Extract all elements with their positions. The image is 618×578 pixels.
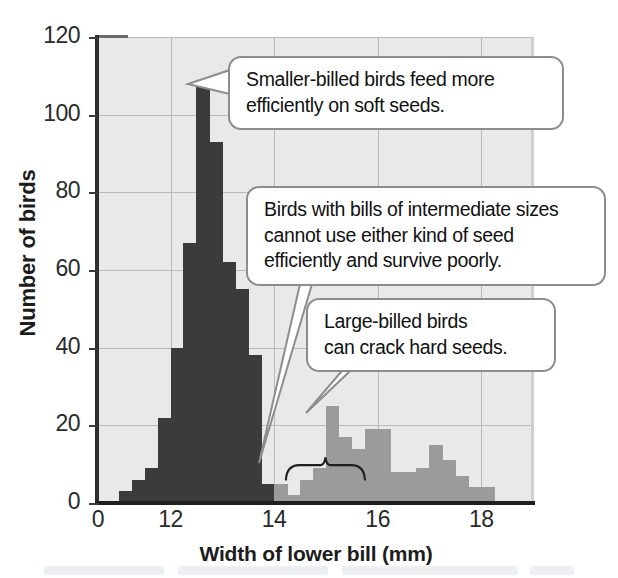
callout-line: Birds with bills of intermediate sizes bbox=[264, 197, 590, 223]
intermediate-callout: Birds with bills of intermediate sizes c… bbox=[246, 186, 606, 286]
bird-bill-width-histogram-figure: Number of birds Width of lower bill (mm)… bbox=[0, 0, 618, 578]
callout-line: efficiently and survive poorly. bbox=[264, 248, 590, 274]
callout-line: Large-billed birds bbox=[324, 309, 540, 335]
intermediate-size-brace bbox=[284, 456, 367, 482]
callout-line: cannot use either kind of seed bbox=[264, 223, 590, 249]
callout-line: can crack hard seeds. bbox=[324, 335, 540, 361]
callout-line: efficiently on soft seeds. bbox=[246, 93, 548, 119]
smaller-billed-callout: Smaller-billed birds feed more efficient… bbox=[228, 56, 564, 130]
callout-line: Smaller-billed birds feed more bbox=[246, 67, 548, 93]
large-billed-callout: Large-billed birds can crack hard seeds. bbox=[306, 298, 556, 372]
